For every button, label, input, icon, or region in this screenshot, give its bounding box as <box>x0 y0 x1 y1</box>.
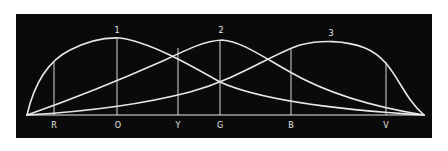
curve-label-3: 3 <box>328 29 333 38</box>
spectrum-label-g: G <box>217 121 223 130</box>
spectrum-label-o: O <box>115 121 121 130</box>
curve-1 <box>27 38 424 115</box>
spectral-curves-diagram: 1 2 3 R O Y G B V <box>0 0 448 151</box>
curve-3 <box>27 42 424 115</box>
curve-label-2: 2 <box>218 26 223 35</box>
spectrum-label-r: R <box>51 121 57 130</box>
curve-label-1: 1 <box>114 26 119 35</box>
spectrum-label-v: V <box>383 121 389 130</box>
curve-2 <box>27 40 424 115</box>
spectrum-label-b: B <box>288 121 294 130</box>
spectrum-label-y: Y <box>175 121 181 130</box>
